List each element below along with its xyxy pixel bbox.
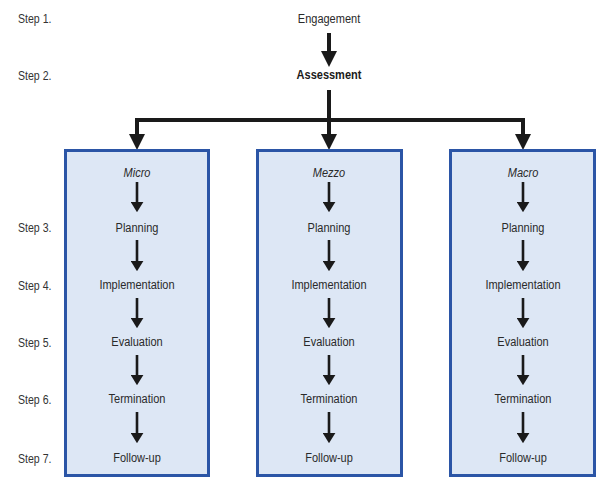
column-title-mezzo: Mezzo	[313, 166, 345, 180]
mezzo-stage-follow-up: Follow-up	[305, 451, 353, 465]
micro-stage-implementation: Implementation	[99, 278, 174, 292]
micro-stage-follow-up: Follow-up	[113, 451, 161, 465]
micro-stage-evaluation: Evaluation	[111, 335, 162, 349]
macro-stage-planning: Planning	[502, 221, 545, 235]
column-title-macro: Macro	[508, 166, 539, 180]
macro-stage-implementation: Implementation	[485, 278, 560, 292]
column-arrows	[0, 0, 607, 489]
macro-stage-termination: Termination	[495, 392, 552, 406]
mezzo-stage-termination: Termination	[301, 392, 358, 406]
macro-stage-evaluation: Evaluation	[497, 335, 548, 349]
mezzo-stage-evaluation: Evaluation	[303, 335, 354, 349]
mezzo-stage-planning: Planning	[308, 221, 351, 235]
micro-stage-planning: Planning	[116, 221, 159, 235]
column-title-micro: Micro	[124, 166, 151, 180]
macro-stage-follow-up: Follow-up	[499, 451, 547, 465]
micro-stage-termination: Termination	[109, 392, 166, 406]
mezzo-stage-implementation: Implementation	[291, 278, 366, 292]
